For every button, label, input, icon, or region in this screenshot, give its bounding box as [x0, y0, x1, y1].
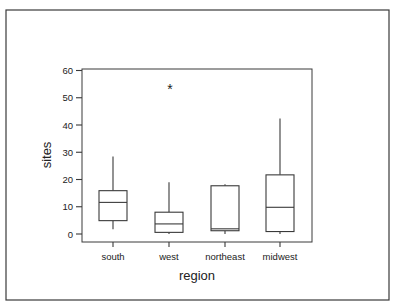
- iqr-box: [155, 212, 183, 232]
- outlier-marker: *: [167, 81, 173, 97]
- box-midwest: [266, 118, 294, 234]
- box-west: *: [155, 81, 183, 234]
- x-tick-label: south: [101, 251, 124, 262]
- y-tick-label: 60: [62, 65, 73, 76]
- x-axis: southwestnortheastmidwest: [101, 242, 297, 262]
- y-axis-title: sites: [39, 141, 54, 168]
- x-tick-label: midwest: [263, 251, 298, 262]
- boxes: *: [99, 81, 294, 234]
- x-tick-label: northeast: [205, 251, 245, 262]
- iqr-box: [266, 175, 294, 232]
- box-south: [99, 157, 127, 230]
- x-tick-label: west: [158, 251, 179, 262]
- y-tick-label: 10: [62, 201, 73, 212]
- y-tick-label: 20: [62, 174, 73, 185]
- box-northeast: [211, 184, 239, 234]
- x-axis-title: region: [179, 268, 215, 283]
- y-tick-label: 50: [62, 92, 73, 103]
- iqr-box: [211, 186, 239, 231]
- y-tick-label: 30: [62, 147, 73, 158]
- y-axis: 0102030405060: [62, 65, 82, 240]
- iqr-box: [99, 191, 127, 221]
- y-tick-label: 40: [62, 120, 73, 131]
- y-tick-label: 0: [68, 229, 73, 240]
- box-plot-chart: 0102030405060 southwestnortheastmidwest …: [0, 0, 393, 303]
